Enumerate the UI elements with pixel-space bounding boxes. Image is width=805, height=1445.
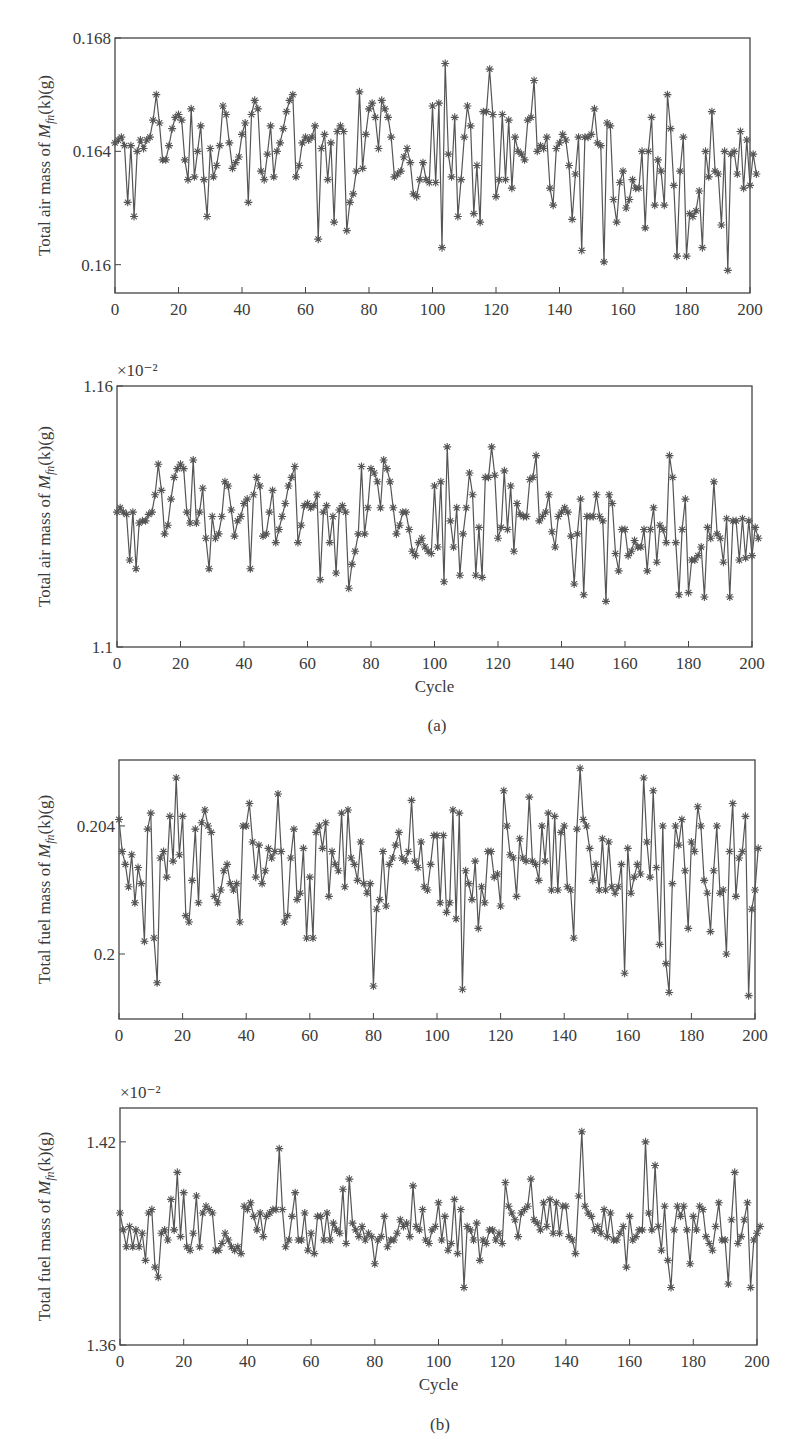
- asterisk-marker: [343, 227, 351, 235]
- asterisk-marker: [310, 502, 318, 510]
- asterisk-marker: [705, 173, 713, 181]
- asterisk-marker: [431, 1223, 439, 1231]
- asterisk-marker: [177, 1233, 185, 1241]
- asterisk-marker: [683, 252, 691, 260]
- asterisk-marker: [446, 899, 454, 907]
- asterisk-marker: [654, 156, 662, 164]
- asterisk-marker: [252, 873, 260, 881]
- asterisk-marker: [513, 499, 521, 507]
- asterisk-marker: [299, 844, 307, 852]
- asterisk-marker: [351, 547, 359, 555]
- x-tick-label: 20: [175, 1352, 192, 1371]
- asterisk-marker: [488, 443, 496, 451]
- asterisk-marker: [291, 462, 299, 470]
- asterisk-marker: [368, 99, 376, 107]
- asterisk-marker: [576, 764, 584, 772]
- asterisk-marker: [282, 108, 290, 116]
- asterisk-marker: [514, 1233, 522, 1241]
- asterisk-marker: [287, 854, 295, 862]
- asterisk-marker: [735, 556, 743, 564]
- asterisk-marker: [441, 60, 449, 68]
- asterisk-marker: [238, 130, 246, 138]
- asterisk-marker: [691, 848, 699, 856]
- asterisk-marker: [503, 822, 511, 830]
- asterisk-marker: [475, 523, 483, 531]
- asterisk-marker: [216, 142, 224, 150]
- asterisk-marker: [446, 517, 454, 525]
- asterisk-marker: [357, 838, 365, 846]
- asterisk-marker: [643, 567, 651, 575]
- asterisk-marker: [150, 934, 158, 942]
- asterisk-marker: [700, 876, 708, 884]
- asterisk-marker: [672, 822, 680, 830]
- asterisk-marker: [379, 848, 387, 856]
- asterisk-marker: [275, 1145, 283, 1153]
- asterisk-marker: [652, 864, 660, 872]
- asterisk-marker: [741, 812, 749, 820]
- asterisk-marker: [288, 473, 296, 481]
- asterisk-marker: [406, 159, 414, 167]
- asterisk-marker: [327, 139, 335, 147]
- asterisk-marker: [196, 508, 204, 516]
- asterisk-marker: [329, 513, 337, 521]
- asterisk-marker: [170, 1226, 178, 1234]
- asterisk-marker: [263, 150, 271, 158]
- asterisk-marker: [543, 133, 551, 141]
- y-multiplier: ×10⁻²: [117, 361, 158, 380]
- asterisk-marker: [265, 508, 273, 516]
- asterisk-marker: [653, 558, 661, 566]
- asterisk-marker: [736, 128, 744, 136]
- asterisk-marker: [294, 539, 302, 547]
- asterisk-marker: [498, 1239, 506, 1247]
- asterisk-marker: [161, 530, 169, 538]
- asterisk-marker: [326, 1236, 334, 1244]
- asterisk-marker: [570, 580, 578, 588]
- asterisk-marker: [695, 187, 703, 195]
- asterisk-marker: [437, 478, 445, 486]
- x-tick-label: 160: [617, 1352, 643, 1371]
- asterisk-marker: [132, 1226, 140, 1234]
- asterisk-marker: [540, 1199, 548, 1207]
- asterisk-marker: [667, 1283, 675, 1291]
- asterisk-marker: [743, 1199, 751, 1207]
- asterisk-marker: [289, 91, 297, 99]
- asterisk-marker: [427, 549, 435, 557]
- asterisk-marker: [246, 565, 254, 573]
- asterisk-marker: [277, 848, 285, 856]
- asterisk-marker: [497, 523, 505, 531]
- asterisk-marker: [656, 940, 664, 948]
- asterisk-marker: [115, 816, 123, 824]
- asterisk-marker: [565, 162, 573, 170]
- asterisk-marker: [665, 452, 673, 460]
- asterisk-marker: [719, 886, 727, 894]
- asterisk-marker: [646, 873, 654, 881]
- asterisk-marker: [650, 504, 658, 512]
- asterisk-marker: [467, 122, 475, 130]
- asterisk-marker: [377, 1233, 385, 1241]
- asterisk-marker: [679, 133, 687, 141]
- series-line: [119, 768, 758, 995]
- asterisk-marker: [209, 173, 217, 181]
- x-tick-label: 60: [299, 654, 316, 673]
- asterisk-marker: [745, 992, 753, 1000]
- x-tick-label: 200: [737, 300, 763, 319]
- asterisk-marker: [261, 867, 269, 875]
- asterisk-marker: [189, 456, 197, 464]
- asterisk-marker: [710, 867, 718, 875]
- asterisk-marker: [748, 552, 756, 560]
- asterisk-marker: [605, 838, 613, 846]
- asterisk-marker: [657, 167, 665, 175]
- asterisk-marker: [592, 491, 600, 499]
- asterisk-marker: [141, 1256, 149, 1264]
- asterisk-marker: [589, 876, 597, 884]
- asterisk-marker: [259, 1233, 267, 1241]
- asterisk-marker: [582, 822, 590, 830]
- asterisk-marker: [190, 173, 198, 181]
- asterisk-marker: [460, 1283, 468, 1291]
- asterisk-marker: [509, 854, 517, 862]
- asterisk-marker: [692, 1226, 700, 1234]
- asterisk-marker: [465, 880, 473, 888]
- asterisk-marker: [192, 519, 200, 527]
- asterisk-marker: [153, 979, 161, 987]
- asterisk-marker: [185, 918, 193, 926]
